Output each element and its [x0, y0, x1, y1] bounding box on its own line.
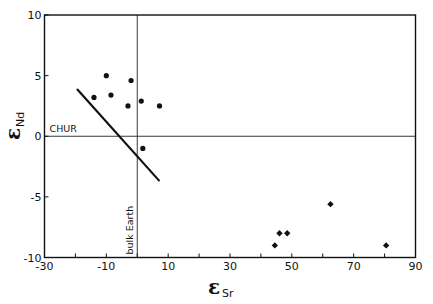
reference-lines [45, 15, 416, 258]
y-axis-subscript: Nd [14, 112, 27, 127]
y-tick-label: 0 [35, 130, 42, 143]
circle-point [157, 103, 162, 108]
circle-point [104, 73, 109, 78]
circle-point [108, 92, 113, 97]
x-axis-title: ε Sr [208, 275, 234, 300]
circle-point [128, 78, 133, 83]
y-axis-title: ε Nd [1, 112, 27, 140]
y-tick-label: -5 [31, 191, 42, 204]
circle-point [140, 146, 145, 151]
trend-line [77, 89, 160, 181]
circle-point [91, 95, 96, 100]
circle-point [125, 103, 130, 108]
x-tick-label: 90 [409, 260, 423, 273]
circle-point [139, 98, 144, 103]
y-tick-label: -10 [24, 252, 42, 265]
bulk-earth-label: bulk Earth [124, 206, 135, 255]
scatter-plot: -30-101030507090-10-50510 CHUR bulk Eart… [0, 0, 433, 304]
x-axis-symbol: ε [208, 275, 220, 299]
x-axis-subscript: Sr [222, 287, 234, 300]
x-tick-label: 10 [161, 260, 175, 273]
x-tick-label: 50 [285, 260, 299, 273]
chur-label: CHUR [50, 123, 78, 134]
x-tick-label: -10 [97, 260, 115, 273]
diamond-point [276, 230, 282, 236]
y-axis-symbol: ε [1, 128, 25, 140]
diamond-point [327, 201, 333, 207]
x-tick-label: 70 [347, 260, 361, 273]
y-tick-label: 10 [28, 9, 42, 22]
y-tick-label: 5 [35, 70, 42, 83]
diamond-point [383, 242, 389, 248]
diamond-point [284, 230, 290, 236]
x-tick-label: 30 [223, 260, 237, 273]
axes: -30-101030507090-10-50510 [24, 9, 423, 273]
diamond-point [272, 242, 278, 248]
